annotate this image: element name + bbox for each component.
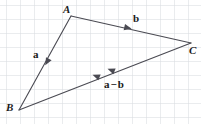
vector-diagram-figure: A B C a b a−b xyxy=(0,0,201,124)
vector-label-a-minus-b-rhs: b xyxy=(118,78,124,90)
vector-label-b: b xyxy=(133,13,139,24)
vertex-label-c: C xyxy=(189,45,196,56)
vector-label-a: a xyxy=(33,49,39,60)
vector-label-a-minus-b-lhs: a xyxy=(104,78,110,90)
vertex-label-b: B xyxy=(6,102,13,113)
diagram-canvas xyxy=(0,0,201,124)
vector-label-a-minus-b: a−b xyxy=(104,79,124,90)
minus-sign-glyph: − xyxy=(110,78,118,90)
vertex-label-a: A xyxy=(63,4,70,15)
